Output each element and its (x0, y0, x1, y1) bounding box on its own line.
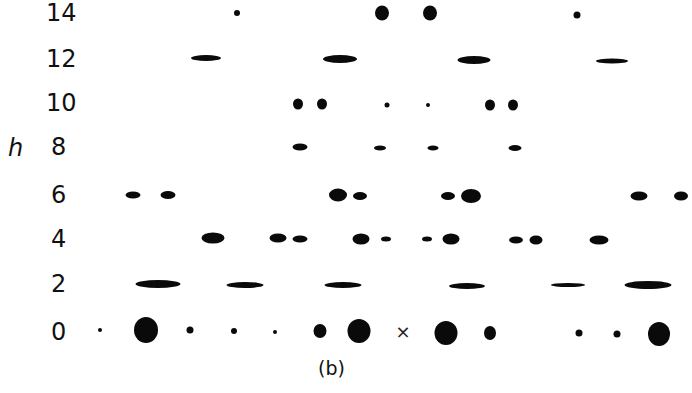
reflection-spot (614, 331, 621, 338)
row-label-h8: 8 (51, 135, 66, 159)
reflection-spot (191, 55, 221, 61)
reflection-spot (374, 146, 386, 151)
row-label-h10: 10 (46, 91, 77, 115)
reflection-spot (385, 103, 390, 108)
reflection-spot (441, 192, 455, 200)
reflection-spot (449, 283, 485, 289)
reflection-spot (231, 328, 237, 334)
reflection-spot (422, 237, 432, 242)
reflection-spot (458, 56, 491, 64)
reflection-spot (574, 12, 581, 19)
diffraction-pattern-figure: h 14121086420 × (b) (0, 0, 692, 393)
row-label-h4: 4 (51, 227, 66, 251)
reflection-spot (353, 192, 367, 200)
reflection-spot (134, 317, 158, 343)
row-label-h12: 12 (46, 47, 77, 71)
reflection-spot (293, 99, 303, 110)
reflection-spot (293, 144, 308, 151)
reflection-spot (443, 234, 460, 245)
reflection-spot (435, 321, 458, 345)
reflection-spot (227, 282, 264, 288)
reflection-spot (270, 234, 287, 243)
reflection-spot (317, 99, 327, 110)
reflection-spot (273, 330, 277, 334)
reflection-spot (98, 328, 102, 332)
reflection-spot (202, 233, 225, 244)
reflection-spot (353, 234, 370, 245)
reflection-spot (348, 319, 371, 343)
reflection-spot (461, 189, 481, 203)
reflection-spot (509, 145, 522, 151)
reflection-spot (590, 236, 609, 245)
reflection-spot (234, 10, 240, 16)
reflection-spot (551, 283, 585, 287)
reflection-spot (509, 237, 523, 244)
reflection-spot (484, 326, 496, 340)
figure-caption: (b) (318, 357, 345, 379)
reflection-spot (428, 146, 439, 151)
reflection-spot (126, 192, 141, 199)
reflection-spot (323, 55, 357, 63)
reflection-spot (648, 322, 670, 346)
reflection-spot (381, 237, 391, 242)
row-label-h14: 14 (46, 1, 77, 25)
reflection-spot (596, 59, 628, 64)
reflection-spot (485, 100, 495, 111)
row-label-h2: 2 (51, 272, 66, 296)
reflection-spot (530, 236, 543, 245)
reflection-spot (293, 236, 308, 243)
reflection-spot (423, 6, 437, 21)
row-label-h6: 6 (51, 183, 66, 207)
reflection-spot (631, 192, 648, 201)
h-axis-label: h (8, 136, 23, 160)
reflection-spot (187, 327, 194, 334)
row-label-h0: 0 (51, 320, 66, 344)
reflection-spot (314, 324, 327, 338)
origin-cross-icon: × (395, 323, 410, 341)
reflection-spot (329, 189, 347, 202)
reflection-spot (325, 282, 362, 288)
reflection-spot (136, 280, 181, 288)
reflection-spot (625, 281, 672, 289)
reflection-spot (674, 192, 688, 201)
reflection-spot (576, 330, 583, 337)
reflection-spot (508, 100, 518, 111)
reflection-spot (161, 191, 176, 199)
reflection-spot (426, 103, 430, 107)
reflection-spot (375, 6, 389, 21)
